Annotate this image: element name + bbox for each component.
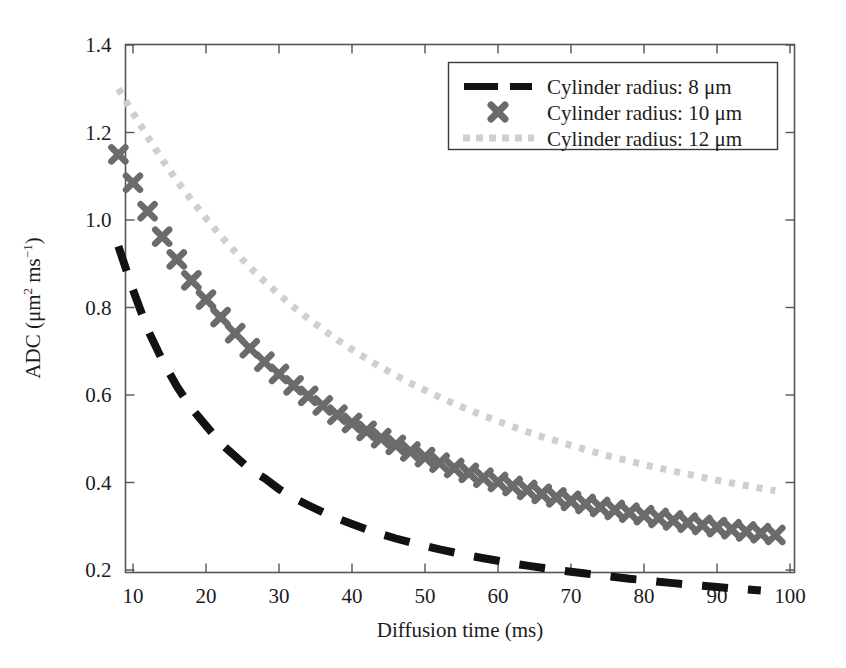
x-tick-label: 30 — [269, 584, 290, 608]
x-tick-label: 100 — [774, 584, 806, 608]
chart-legend: Cylinder radius: 8 μm Cylinder radius: 1… — [449, 63, 778, 152]
x-tick-label: 80 — [634, 584, 655, 608]
x-tick-label: 50 — [415, 584, 436, 608]
y-tick-label: 0.4 — [85, 471, 112, 495]
x-tick-label: 10 — [123, 584, 144, 608]
x-axis-title: Diffusion time (ms) — [377, 618, 543, 642]
legend-label: Cylinder radius: 12 μm — [547, 127, 742, 151]
x-tick-label: 20 — [196, 584, 217, 608]
y-axis-title-group: ADC (μm2 ms−1) — [20, 237, 45, 378]
chart-figure: 102030405060708090100 0.20.40.60.81.01.2… — [0, 0, 846, 668]
x-tick-label: 70 — [561, 584, 582, 608]
y-tick-label: 1.4 — [85, 33, 112, 57]
y-tick-label: 0.8 — [85, 296, 111, 320]
y-tick-label: 1.2 — [85, 121, 111, 145]
dashed-line-swatch — [464, 83, 532, 90]
y-tick-label: 1.0 — [85, 208, 111, 232]
legend-label: Cylinder radius: 10 μm — [547, 101, 742, 125]
adc-diffusion-time-chart: 102030405060708090100 0.20.40.60.81.01.2… — [0, 0, 846, 668]
y-axis-title: ADC (μm2 ms−1) — [20, 237, 45, 378]
x-tick-label: 40 — [342, 584, 363, 608]
legend-label: Cylinder radius: 8 μm — [547, 75, 732, 99]
x-marker-swatch — [491, 105, 505, 119]
y-tick-label: 0.2 — [85, 558, 111, 582]
x-tick-label: 60 — [488, 584, 509, 608]
y-tick-label: 0.6 — [85, 383, 111, 407]
